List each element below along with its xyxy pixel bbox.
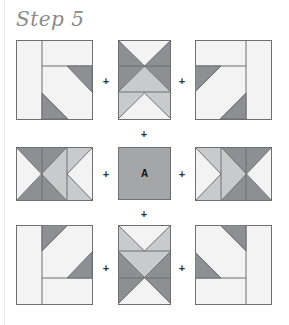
block-top-left: [16, 40, 93, 120]
plus-sign: +: [101, 263, 111, 273]
plus-sign: +: [139, 209, 149, 219]
center-block-a: A: [118, 147, 171, 200]
block-bottom-left: [16, 225, 93, 305]
plus-sign: +: [101, 169, 111, 179]
plus-sign: +: [177, 263, 187, 273]
block-top-right: [195, 40, 272, 120]
block-middle-left: [16, 147, 93, 201]
page-margin-line: [4, 0, 5, 325]
plus-sign: +: [101, 76, 111, 86]
center-block-label: A: [141, 168, 148, 179]
block-top-center: [118, 40, 171, 120]
block-bottom-center: [118, 225, 171, 305]
plus-sign: +: [139, 129, 149, 139]
step-title: Step 5: [16, 7, 84, 31]
plus-sign: +: [177, 76, 187, 86]
block-bottom-right: [195, 225, 272, 305]
block-middle-right: [195, 147, 272, 201]
plus-sign: +: [177, 169, 187, 179]
